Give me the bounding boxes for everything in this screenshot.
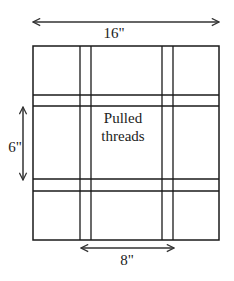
width-label: 16" [103, 25, 124, 41]
gap-label: 8" [120, 252, 134, 268]
pulled-threads-label-line1: Pulled [104, 110, 143, 126]
height-label: 6" [8, 139, 22, 155]
pulled-threads-label-line2: threads [101, 128, 144, 144]
fabric-diagram: 16" Pulled threads 6" 8" [0, 0, 234, 281]
